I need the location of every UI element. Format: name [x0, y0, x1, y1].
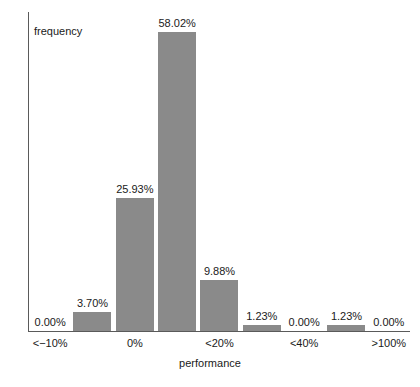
bar-group: 0.00%	[283, 12, 325, 331]
bar-group: 9.88%	[198, 12, 240, 331]
bar-value-label: 1.23%	[246, 310, 277, 323]
bar-group: 3.70%	[71, 12, 113, 331]
x-axis-tick-label: 0%	[127, 337, 143, 350]
bar-value-label: 3.70%	[77, 297, 108, 310]
x-axis-title: performance	[0, 357, 420, 370]
bar[interactable]	[73, 312, 111, 331]
bar[interactable]	[243, 325, 281, 331]
bar-group: 25.93%	[114, 12, 156, 331]
bar-group: 1.23%	[325, 12, 367, 331]
bar[interactable]	[200, 280, 238, 331]
bar-value-label: 0.00%	[35, 316, 66, 329]
bar-group: 58.02%	[156, 12, 198, 331]
bar-group: 0.00%	[29, 12, 71, 331]
plot-area: 0.00%3.70%25.93%58.02%9.88%1.23%0.00%1.2…	[29, 12, 410, 331]
bar[interactable]	[158, 32, 196, 331]
bar-value-label: 58.02%	[159, 17, 196, 30]
bar-value-label: 25.93%	[116, 183, 153, 196]
bar-value-label: 1.23%	[331, 310, 362, 323]
bar-group: 1.23%	[241, 12, 283, 331]
bar[interactable]	[116, 198, 154, 331]
bar-value-label: 0.00%	[289, 316, 320, 329]
bar-group: 0.00%	[368, 12, 410, 331]
x-axis-tick-label: <−10%	[33, 337, 68, 350]
bar-value-label: 0.00%	[373, 316, 404, 329]
bar-value-label: 9.88%	[204, 265, 235, 278]
x-axis-line	[28, 331, 410, 332]
x-axis-tick-label: <20%	[205, 337, 233, 350]
x-axis-tick-label: >100%	[372, 337, 407, 350]
bar-chart: frequency performance 0.00%3.70%25.93%58…	[0, 0, 420, 387]
bar[interactable]	[327, 325, 365, 331]
x-axis-tick-label: <40%	[290, 337, 318, 350]
